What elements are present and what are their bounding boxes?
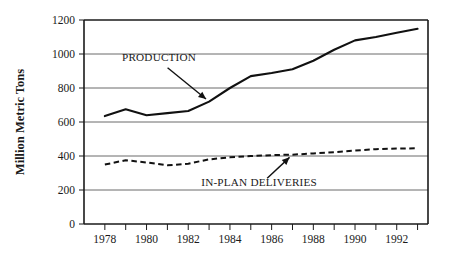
y-tick-label-800: 800	[58, 82, 76, 94]
x-tick-label-1986: 1986	[260, 233, 283, 245]
series-label-production: PRODUCTION	[122, 51, 196, 63]
y-tick-label-200: 200	[58, 184, 76, 196]
x-tick-label-1982: 1982	[177, 233, 200, 245]
chart-background	[0, 0, 451, 269]
y-tick-label-1200: 1200	[52, 14, 75, 26]
x-tick-label-1988: 1988	[302, 233, 325, 245]
y-tick-label-400: 400	[58, 150, 76, 162]
chart-figure: 020040060080010001200 197819801982198419…	[0, 0, 451, 269]
y-axis-title: Million Metric Tons	[13, 69, 27, 175]
y-tick-label-1000: 1000	[52, 48, 75, 60]
x-tick-label-1978: 1978	[93, 233, 116, 245]
y-tick-label-0: 0	[69, 218, 75, 230]
x-tick-label-1984: 1984	[218, 233, 241, 245]
line-chart: 020040060080010001200 197819801982198419…	[0, 0, 451, 269]
x-tick-label-1992: 1992	[385, 233, 408, 245]
y-tick-label-600: 600	[58, 116, 76, 128]
series-label-in-plan-deliveries: IN-PLAN DELIVERIES	[201, 176, 317, 188]
x-tick-label-1990: 1990	[344, 233, 367, 245]
x-tick-label-1980: 1980	[135, 233, 158, 245]
